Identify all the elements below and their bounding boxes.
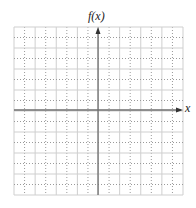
y-axis-arrow-icon: [96, 27, 101, 34]
x-axis-label: x: [185, 101, 190, 116]
x-axis-arrow-icon: [176, 108, 183, 113]
coordinate-grid: [0, 0, 196, 208]
y-axis-label: f(x): [88, 9, 105, 24]
